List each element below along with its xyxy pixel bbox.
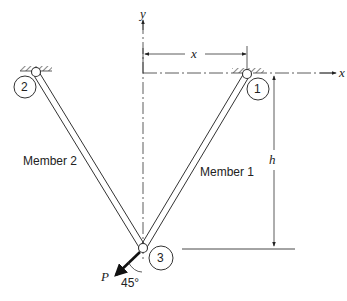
h-dimension-label: h bbox=[269, 152, 276, 167]
member-2: Member 2 bbox=[23, 72, 146, 249]
load-angle-label: 45° bbox=[121, 276, 139, 290]
node-2-label: 2 bbox=[21, 80, 28, 94]
h-dimension: h bbox=[182, 76, 295, 249]
member-1: Member 1 bbox=[140, 73, 254, 249]
load-label: P bbox=[100, 269, 109, 284]
y-axis-label: y bbox=[138, 6, 146, 21]
node-3-label: 3 bbox=[157, 251, 164, 265]
angle-arc-icon bbox=[128, 262, 142, 272]
pin-icon bbox=[32, 68, 41, 77]
node-3: 3 bbox=[139, 244, 174, 271]
pin-icon bbox=[243, 70, 252, 79]
pin-icon bbox=[139, 244, 148, 253]
node-1-label: 1 bbox=[254, 82, 261, 96]
support-node-2: 2 bbox=[14, 66, 52, 98]
load-p: P 45° bbox=[100, 252, 142, 290]
y-axis: y bbox=[138, 6, 146, 260]
load-arrow-icon bbox=[116, 252, 140, 275]
member-1-label: Member 1 bbox=[200, 165, 254, 179]
x-dimension-label: x bbox=[190, 46, 197, 61]
member-2-label: Member 2 bbox=[23, 154, 77, 168]
x-axis-label: x bbox=[338, 65, 345, 80]
x-dimension: x bbox=[143, 46, 247, 73]
